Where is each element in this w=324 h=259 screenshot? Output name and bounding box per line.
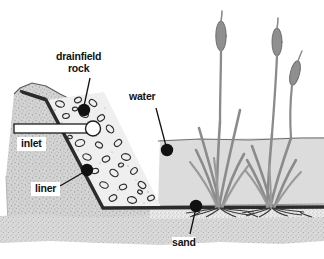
water-body xyxy=(158,137,324,206)
label-inlet: inlet xyxy=(17,137,46,151)
cattail-head xyxy=(216,11,226,122)
dot-water xyxy=(161,144,173,156)
label-drainfield-rock-line2: rock xyxy=(56,63,101,75)
dot-liner xyxy=(81,164,93,176)
label-drainfield-rock: drainfield rock xyxy=(56,51,101,74)
label-liner: liner xyxy=(31,182,60,196)
cattail-head xyxy=(288,51,303,138)
label-drainfield-rock-line1: drainfield xyxy=(56,51,101,63)
label-water: water xyxy=(129,91,155,103)
dot-sand xyxy=(190,200,202,212)
cattail-head xyxy=(272,18,282,134)
diagram-artwork xyxy=(0,0,324,259)
dot-drainfield-rock xyxy=(78,104,90,116)
wetland-cross-section-diagram: drainfield rock water inlet liner sand xyxy=(0,0,324,259)
label-sand: sand xyxy=(172,237,196,249)
